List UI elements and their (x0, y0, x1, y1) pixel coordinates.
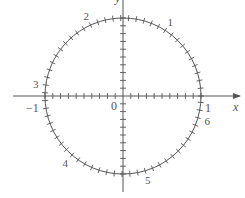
unit-circle-diagram: x y 0 −1 1 123456 (0, 0, 245, 198)
origin-label: 0 (111, 99, 117, 113)
circle-tick (82, 26, 85, 31)
circle-tick (106, 169, 107, 175)
x-axis-label: x (232, 100, 239, 114)
circle-tick (54, 136, 59, 139)
circle-tick (43, 108, 49, 109)
radian-label: 4 (62, 157, 68, 169)
diagram-canvas: x y 0 −1 1 123456 (0, 0, 245, 198)
circle-tick (136, 16, 137, 22)
circle-tick (43, 85, 49, 86)
radian-label: 2 (83, 10, 89, 22)
pos-one-label: 1 (205, 101, 211, 115)
neg-one-label: −1 (26, 101, 39, 115)
labels: x y 0 −1 1 (26, 0, 239, 115)
radian-label: 6 (204, 115, 210, 127)
circle-tick (164, 28, 167, 33)
circle-tick (59, 142, 64, 146)
circle-tick (165, 158, 168, 163)
circle-tick (186, 137, 191, 140)
axes (13, 0, 240, 192)
circle-tick (114, 171, 115, 177)
circle-tick (198, 88, 204, 89)
radian-labels: 123456 (33, 10, 211, 186)
circle-tick (130, 171, 131, 177)
circle-tick (54, 54, 59, 57)
circle-tick (197, 80, 203, 81)
circle-tick (113, 16, 114, 22)
circle-tick (197, 110, 203, 111)
circle-tick (76, 157, 79, 162)
radian-label: 5 (145, 174, 151, 186)
circle-tick (137, 170, 138, 176)
y-axis-label: y (114, 0, 121, 5)
circle-tick (185, 50, 190, 53)
radian-label: 3 (33, 78, 39, 90)
radian-label: 1 (168, 16, 174, 28)
circle-tick (75, 31, 79, 36)
circle-tick (58, 48, 63, 52)
